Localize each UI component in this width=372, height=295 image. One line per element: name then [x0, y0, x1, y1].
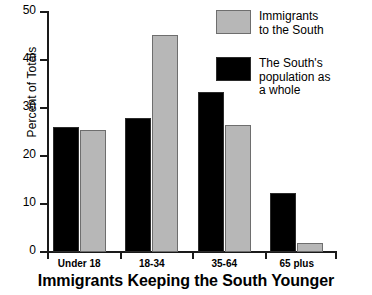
x-axis-label-65-plus: 65 plus	[280, 258, 314, 269]
y-axis-tick-label: 10	[0, 195, 36, 209]
x-axis-label-under-18: Under 18	[58, 258, 101, 269]
legend-label-line2: to the South	[259, 24, 324, 38]
y-axis-tick: 40	[40, 59, 49, 61]
x-axis-tick	[120, 252, 122, 259]
x-axis-label-35-64: 35-64	[211, 258, 237, 269]
x-axis-tick	[335, 252, 337, 259]
bar-chart: Percent of Totals 01020304050 Immigrants…	[0, 0, 372, 295]
bar-65-plus-immigrants	[297, 243, 323, 252]
legend-label-immigrants: Immigrants to the South	[259, 10, 324, 37]
y-axis-tick: 10	[40, 203, 49, 205]
legend-entry-south-population: The South's population as a whole	[216, 57, 366, 98]
chart-title: Immigrants Keeping the South Younger	[0, 272, 372, 290]
y-axis-tick-label: 40	[0, 51, 36, 65]
legend-label-line1: The South's	[259, 57, 330, 71]
y-axis-tick: 20	[40, 155, 49, 157]
gray-swatch-icon	[216, 10, 251, 34]
legend-label-line2: population as	[259, 71, 330, 85]
bar-65-plus-population	[270, 193, 296, 252]
bar-18-34-population	[125, 118, 151, 252]
y-axis-line	[47, 12, 49, 253]
chart-legend: Immigrants to the South The South's popu…	[216, 10, 366, 118]
y-axis-tick-label: 20	[0, 147, 36, 161]
y-axis-tick-label: 50	[0, 3, 36, 17]
bar-35-64-immigrants	[225, 125, 251, 252]
bar-18-34-immigrants	[152, 35, 178, 252]
x-axis-tick	[265, 252, 267, 259]
bar-under-18-immigrants	[80, 130, 106, 252]
y-axis-tick-label: 0	[0, 243, 36, 257]
y-axis-tick: 30	[40, 107, 49, 109]
black-swatch-icon	[216, 57, 251, 81]
legend-label-south-population: The South's population as a whole	[259, 57, 330, 98]
y-axis-tick: 50	[40, 11, 49, 13]
x-axis-tick	[47, 252, 49, 259]
x-axis-tick	[192, 252, 194, 259]
legend-label-line1: Immigrants	[259, 10, 324, 24]
legend-entry-immigrants: Immigrants to the South	[216, 10, 366, 37]
y-axis-tick-label: 30	[0, 99, 36, 113]
bar-under-18-population	[53, 127, 79, 252]
x-axis-label-18-34: 18-34	[139, 258, 165, 269]
legend-label-line3: a whole	[259, 84, 330, 98]
